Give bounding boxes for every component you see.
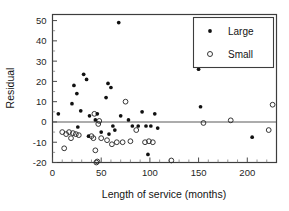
data-point-large — [106, 82, 110, 86]
x-tick-label: 150 — [191, 167, 207, 178]
y-tick-label: 50 — [36, 15, 47, 26]
data-point-large — [79, 109, 83, 113]
x-tick-label: 0 — [50, 167, 55, 178]
legend-marker-large — [208, 29, 212, 33]
data-point-large — [94, 118, 98, 122]
y-tick-label: -10 — [33, 137, 47, 148]
data-point-large — [131, 124, 135, 128]
data-point-large — [107, 132, 111, 136]
scatter-plot-canvas: -20-1001020304050 050100150200 Large Sma… — [0, 0, 289, 211]
data-point-large — [153, 112, 157, 116]
x-axis-tick-labels: 050100150200 — [50, 167, 255, 178]
y-axis-ticks — [53, 21, 58, 163]
data-point-large — [88, 114, 92, 118]
legend-label-small: Small — [228, 49, 253, 60]
data-point-large — [99, 130, 103, 134]
data-point-large — [85, 78, 89, 82]
data-point-large — [140, 110, 144, 114]
data-point-small — [69, 136, 74, 141]
x-tick-label: 100 — [142, 167, 158, 178]
data-point-large — [199, 105, 203, 109]
y-tick-label: 10 — [36, 96, 47, 107]
data-point-small — [97, 119, 102, 124]
data-point-small — [270, 102, 275, 107]
data-point-small — [134, 128, 139, 133]
data-point-large — [127, 118, 131, 122]
x-axis-title: Length of service (months) — [102, 188, 226, 200]
data-point-large — [146, 153, 150, 157]
data-point-small — [120, 140, 125, 145]
data-point-large — [76, 125, 80, 129]
data-point-large — [119, 114, 123, 118]
data-point-small — [201, 121, 206, 126]
x-tick-label: 200 — [239, 167, 255, 178]
data-point-small — [93, 148, 98, 153]
y-tick-label: -20 — [33, 157, 47, 168]
data-point-small — [62, 146, 67, 151]
data-point-small — [105, 138, 110, 143]
y-tick-label: 0 — [41, 116, 46, 127]
x-tick-label: 50 — [96, 167, 107, 178]
y-tick-label: 40 — [36, 35, 47, 46]
data-point-large — [156, 126, 160, 130]
data-point-large — [82, 72, 86, 76]
data-point-large — [250, 135, 254, 139]
residual-scatter-figure: -20-1001020304050 050100150200 Large Sma… — [0, 0, 289, 211]
data-point-small — [76, 133, 81, 138]
data-point-large — [149, 124, 153, 128]
chart-legend: Large Small — [194, 18, 274, 68]
data-point-small — [114, 140, 119, 145]
data-point-large — [72, 84, 76, 88]
data-points-small — [60, 99, 275, 165]
data-point-large — [113, 128, 117, 132]
data-point-small — [99, 136, 104, 141]
data-point-small — [73, 132, 78, 137]
data-point-large — [56, 112, 60, 116]
y-axis-title: Residual — [4, 68, 16, 109]
data-point-small — [266, 128, 271, 133]
data-point-large — [87, 134, 91, 138]
data-point-large — [109, 86, 113, 90]
data-point-large — [104, 96, 108, 100]
legend-label-large: Large — [228, 26, 254, 37]
data-point-small — [128, 139, 133, 144]
data-point-large — [95, 112, 99, 116]
y-tick-label: 20 — [36, 76, 47, 87]
data-point-large — [117, 21, 121, 25]
data-point-small — [123, 99, 128, 104]
y-tick-label: 30 — [36, 56, 47, 67]
data-point-large — [136, 124, 140, 128]
data-point-small — [110, 142, 115, 147]
y-axis-tick-labels: -20-1001020304050 — [33, 15, 47, 168]
data-point-large — [144, 124, 148, 128]
data-point-large — [70, 102, 74, 106]
data-point-large — [111, 124, 115, 128]
x-axis-ticks — [53, 158, 267, 163]
data-point-large — [75, 92, 79, 96]
